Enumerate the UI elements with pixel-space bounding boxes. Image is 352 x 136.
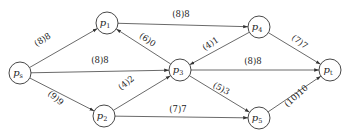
edge-line	[115, 116, 248, 118]
edge-label: (7)7	[169, 104, 186, 114]
node-p1: p1	[96, 12, 118, 34]
node-pt: pt	[319, 59, 341, 81]
edge-p1-to-p4	[118, 23, 248, 26]
edge-p4-to-p3	[190, 32, 250, 64]
edge-label: (8)8	[91, 55, 108, 65]
edge-line	[118, 23, 248, 26]
node-p2: p2	[93, 105, 115, 127]
edge-ps-to-p3	[31, 70, 169, 73]
edge-label: (9)9	[46, 88, 66, 107]
edge-label: (6)0	[138, 30, 158, 48]
node-p3: p3	[169, 59, 191, 81]
edge-label: (7)7	[290, 32, 310, 50]
edge-line	[31, 70, 169, 73]
edge-label: (8)8	[172, 9, 189, 19]
network-flow-diagram: psp1p2p3p4p5pt (8)8(8)8(9)9(6)0(8)8(4)2(…	[0, 0, 352, 136]
edge-label: (8)8	[32, 31, 52, 49]
edge-label: (4)2	[116, 73, 136, 92]
node-ps: ps	[9, 62, 31, 84]
node-p5: p5	[248, 107, 270, 129]
edge-label: (5)3	[211, 80, 231, 97]
edge-label: (10)10	[282, 83, 310, 109]
edge-line	[190, 32, 250, 64]
edge-p2-to-p5	[115, 116, 248, 118]
edge-line	[30, 78, 94, 111]
edge-label: (8)8	[244, 56, 261, 66]
edge-ps-to-p2	[30, 78, 94, 111]
node-p4: p4	[248, 16, 270, 38]
